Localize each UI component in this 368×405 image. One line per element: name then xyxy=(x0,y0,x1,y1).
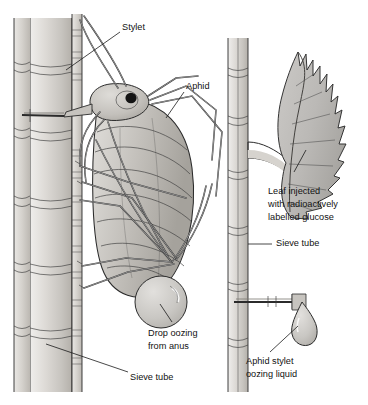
left-feeding-tube xyxy=(72,14,82,392)
feeding-tube-body xyxy=(72,14,82,392)
aphid-sieve-tube-diagram: Stylet Aphid Drop oozing from anus Sieve… xyxy=(0,0,368,405)
label-aphid-stylet-line1: Aphid stylet xyxy=(246,356,294,366)
label-aphid: Aphid xyxy=(186,81,210,91)
label-aphid-stylet-line2: oozing liquid xyxy=(246,369,297,379)
label-drop-oozing-line2: from anus xyxy=(148,341,189,351)
left-tube-wall xyxy=(30,18,72,392)
label-sieve-tube-right: Sieve tube xyxy=(276,238,319,248)
label-leaf-injected-line1: Leaf injected xyxy=(268,186,320,196)
label-drop-oozing-line1: Drop oozing xyxy=(148,328,198,338)
label-stylet: Stylet xyxy=(122,22,145,32)
anus-drop xyxy=(135,276,187,328)
label-leaf-injected-line3: labelled glucose xyxy=(268,212,334,222)
label-sieve-tube-left: Sieve tube xyxy=(130,372,173,382)
right-stem xyxy=(228,38,248,392)
label-leaf-injected-line2: with radioactively xyxy=(267,199,338,209)
aphid-eye xyxy=(125,93,136,103)
left-sieve-tube xyxy=(14,18,72,392)
